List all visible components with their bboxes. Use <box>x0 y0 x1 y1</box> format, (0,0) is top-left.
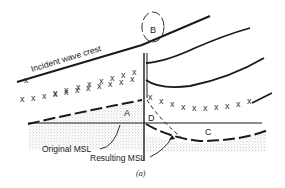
svg-text:x: x <box>181 102 186 112</box>
svg-text:x: x <box>86 83 91 93</box>
svg-text:x: x <box>236 99 241 109</box>
diffracted-crest-1 <box>146 28 250 63</box>
region-a-label: A <box>124 108 130 118</box>
svg-text:x: x <box>203 103 208 113</box>
svg-text:x: x <box>42 91 47 101</box>
svg-text:x: x <box>24 75 29 85</box>
diffracted-crest-3-dashed <box>252 93 272 103</box>
svg-text:x: x <box>31 93 36 103</box>
orthogonal-markers-right: x x x x x x x x x x <box>148 92 252 113</box>
svg-text:x: x <box>130 74 135 84</box>
wave-diffraction-diagram: B Incident wave crest x x x x x x x x x … <box>0 0 285 188</box>
svg-text:x: x <box>192 103 197 113</box>
orthogonal-markers-row2: x x x x x x x x x x x <box>20 74 135 104</box>
svg-text:x: x <box>53 89 58 99</box>
svg-text:x: x <box>119 77 124 87</box>
original-msl-label: Original MSL <box>42 144 91 154</box>
svg-text:x: x <box>170 99 175 109</box>
svg-text:x: x <box>64 87 69 97</box>
svg-text:x: x <box>20 94 25 104</box>
svg-text:x: x <box>159 96 164 106</box>
region-c-label: C <box>205 127 212 137</box>
region-d-label: D <box>148 113 155 123</box>
svg-text:x: x <box>148 92 153 102</box>
figure-caption: (a) <box>136 169 146 178</box>
orthogonal-markers-left-top: x <box>24 75 29 85</box>
resulting-msl-label: Resulting MSL <box>90 153 146 163</box>
svg-text:x: x <box>97 81 102 91</box>
diffracted-crest-2 <box>146 58 264 87</box>
incident-wave-crest-label: Incident wave crest <box>30 43 103 74</box>
svg-text:x: x <box>247 96 252 106</box>
svg-text:x: x <box>108 79 113 89</box>
region-b-label: B <box>150 25 156 35</box>
svg-text:x: x <box>214 102 219 112</box>
svg-text:x: x <box>75 85 80 95</box>
svg-text:x: x <box>225 101 230 111</box>
